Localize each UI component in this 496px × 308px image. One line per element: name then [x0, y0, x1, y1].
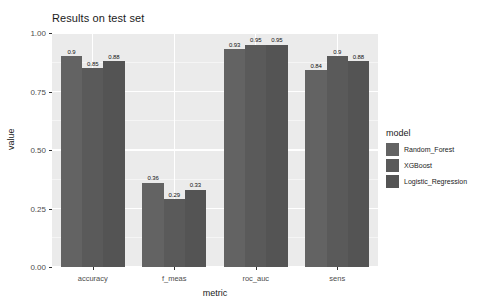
legend-label: XGBoost: [404, 162, 432, 169]
legend-swatch: [386, 175, 399, 188]
legend-label: Logistic_Regression: [404, 178, 467, 185]
x-tick-mark: [337, 267, 338, 270]
x-tick-label: accuracy: [78, 274, 108, 283]
legend: model Random_ForestXGBoostLogistic_Regre…: [386, 128, 467, 191]
legend-title: model: [386, 128, 467, 138]
y-axis-title: value: [6, 128, 16, 150]
legend-swatch: [386, 143, 399, 156]
x-tick-label: sens: [329, 274, 345, 283]
x-tick-mark: [256, 267, 257, 270]
legend-item[interactable]: XGBoost: [386, 159, 467, 172]
legend-item[interactable]: Logistic_Regression: [386, 175, 467, 188]
x-tick-label: f_meas: [162, 274, 187, 283]
x-tick-mark: [174, 267, 175, 270]
legend-swatch: [386, 159, 399, 172]
legend-items: Random_ForestXGBoostLogistic_Regression: [386, 143, 467, 188]
legend-label: Random_Forest: [404, 146, 454, 153]
x-tick-label: roc_auc: [242, 274, 269, 283]
x-axis-title: metric: [203, 288, 228, 298]
legend-item[interactable]: Random_Forest: [386, 143, 467, 156]
chart-figure: Results on test set 0.90.850.880.360.290…: [0, 0, 496, 308]
x-tick-mark: [93, 267, 94, 270]
